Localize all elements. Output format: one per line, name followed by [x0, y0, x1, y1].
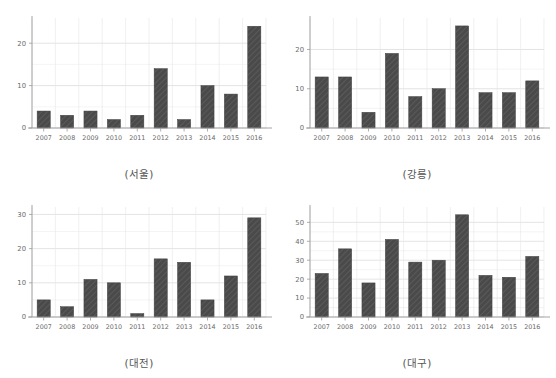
x-tick-label: 2016: [246, 134, 262, 142]
bar: [178, 262, 191, 317]
bar: [61, 307, 74, 317]
y-axis-ticks: 01020304050: [295, 219, 310, 322]
bar: [84, 111, 97, 128]
y-axis-ticks: 01020: [17, 40, 32, 133]
y-tick-label: 20: [295, 46, 304, 54]
x-tick-label: 2014: [477, 134, 493, 142]
bar: [224, 276, 237, 317]
bar: [107, 120, 120, 128]
bar: [362, 112, 375, 128]
x-tick-label: 2015: [501, 323, 517, 331]
y-tick-label: 0: [22, 124, 26, 132]
x-axis-ticks: 2007200820092010201120122013201420152016: [36, 317, 263, 331]
bar-chart-svg-seoul: 0102020072008200920102011201220132014201…: [0, 0, 278, 162]
x-tick-label: 2009: [82, 323, 98, 331]
x-tick-label: 2011: [129, 134, 145, 142]
y-axis-ticks: 01020: [295, 46, 310, 133]
bar: [385, 53, 398, 128]
x-tick-label: 2013: [454, 323, 470, 331]
x-tick-label: 2010: [106, 134, 122, 142]
x-tick-label: 2010: [384, 134, 400, 142]
x-tick-label: 2014: [199, 134, 215, 142]
x-tick-label: 2013: [176, 134, 192, 142]
bar: [409, 97, 422, 128]
y-tick-label: 30: [295, 257, 304, 265]
panel-caption-daegu: (대구): [278, 355, 556, 370]
x-axis-ticks: 2007200820092010201120122013201420152016: [314, 128, 541, 142]
y-tick-label: 20: [295, 276, 304, 284]
x-tick-label: 2014: [477, 323, 493, 331]
bar: [479, 93, 492, 128]
plot-area-seoul: 0102020072008200920102011201220132014201…: [0, 0, 278, 189]
bar: [432, 260, 445, 317]
x-tick-label: 2014: [199, 323, 215, 331]
x-tick-label: 2009: [360, 323, 376, 331]
y-tick-label: 10: [295, 294, 304, 302]
x-tick-label: 2008: [337, 134, 353, 142]
x-axis-ticks: 2007200820092010201120122013201420152016: [36, 128, 263, 142]
x-tick-label: 2016: [524, 323, 540, 331]
y-tick-label: 20: [17, 40, 26, 48]
x-tick-label: 2016: [524, 134, 540, 142]
bar: [456, 26, 469, 128]
y-tick-label: 10: [17, 279, 26, 287]
x-tick-label: 2008: [59, 134, 75, 142]
y-tick-label: 10: [17, 82, 26, 90]
x-tick-label: 2012: [431, 323, 447, 331]
bar-chart-svg-daegu: 0102030405020072008200920102011201220132…: [278, 189, 556, 351]
bar: [154, 69, 167, 128]
y-tick-label: 30: [17, 211, 26, 219]
bar: [61, 115, 74, 128]
bar: [178, 120, 191, 128]
x-tick-label: 2007: [314, 134, 330, 142]
plot-area-daejeon: 0102030200720082009201020112012201320142…: [0, 189, 278, 378]
bar: [339, 249, 352, 317]
x-tick-label: 2009: [360, 134, 376, 142]
x-tick-label: 2010: [384, 323, 400, 331]
multi-panel-bar-chart-figure: 0102020072008200920102011201220132014201…: [0, 0, 556, 378]
y-tick-label: 0: [300, 313, 304, 321]
panel-caption-daejeon: (대전): [0, 355, 278, 370]
bar: [248, 218, 261, 317]
x-tick-label: 2010: [106, 323, 122, 331]
bar: [479, 275, 492, 317]
y-tick-label: 0: [22, 313, 26, 321]
bar: [502, 93, 515, 128]
bar: [339, 77, 352, 128]
bar: [84, 279, 97, 317]
y-tick-label: 20: [17, 245, 26, 253]
bar-chart-svg-gangneung: 0102020072008200920102011201220132014201…: [278, 0, 556, 162]
x-tick-label: 2007: [36, 134, 52, 142]
bar: [37, 300, 50, 317]
x-tick-label: 2015: [501, 134, 517, 142]
bar: [131, 115, 144, 128]
chart-panel-daejeon: 0102030200720082009201020112012201320142…: [0, 189, 278, 378]
bar: [154, 259, 167, 317]
plot-area-daegu: 0102030405020072008200920102011201220132…: [278, 189, 556, 378]
bar: [248, 26, 261, 128]
bar: [201, 300, 214, 317]
bar: [315, 77, 328, 128]
x-tick-label: 2012: [153, 323, 169, 331]
x-tick-label: 2013: [176, 323, 192, 331]
x-axis-ticks: 2007200820092010201120122013201420152016: [314, 317, 541, 331]
chart-panel-gangneung: 0102020072008200920102011201220132014201…: [278, 0, 556, 189]
bar: [315, 273, 328, 317]
bar: [409, 262, 422, 317]
bar: [385, 239, 398, 317]
bar: [456, 215, 469, 317]
bar: [432, 89, 445, 128]
bar: [37, 111, 50, 128]
bar: [526, 81, 539, 128]
x-tick-label: 2008: [59, 323, 75, 331]
bar: [362, 283, 375, 317]
bar: [224, 94, 237, 128]
x-tick-label: 2011: [129, 323, 145, 331]
x-tick-label: 2015: [223, 134, 239, 142]
y-tick-label: 0: [300, 124, 304, 132]
bar-chart-svg-daejeon: 0102030200720082009201020112012201320142…: [0, 189, 278, 351]
x-tick-label: 2011: [407, 134, 423, 142]
plot-area-gangneung: 0102020072008200920102011201220132014201…: [278, 0, 556, 189]
chart-panel-daegu: 0102030405020072008200920102011201220132…: [278, 189, 556, 378]
x-tick-label: 2009: [82, 134, 98, 142]
